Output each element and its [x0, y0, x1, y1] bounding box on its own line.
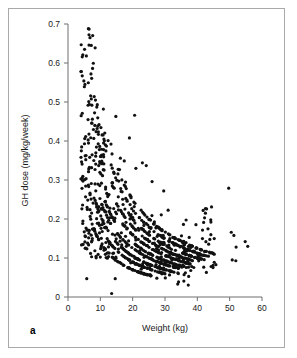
data-point — [97, 253, 100, 256]
data-point — [175, 257, 178, 260]
data-point — [104, 241, 107, 244]
data-point — [209, 233, 212, 236]
data-point — [143, 266, 146, 269]
data-point — [119, 157, 122, 160]
data-point — [133, 221, 136, 224]
data-point — [83, 48, 86, 51]
data-point — [203, 216, 206, 219]
data-point — [128, 136, 131, 139]
x-tick-label: 40 — [193, 303, 203, 313]
data-point — [95, 130, 98, 133]
data-point — [100, 208, 103, 211]
y-tick-label: 0.7 — [48, 19, 60, 29]
data-point — [90, 255, 93, 258]
data-point — [134, 263, 137, 266]
data-point — [126, 251, 129, 254]
data-point — [142, 242, 145, 245]
data-point — [116, 242, 119, 245]
data-point — [134, 228, 137, 231]
y-tick-label: 0.6 — [48, 58, 60, 68]
data-point — [100, 133, 103, 136]
data-point — [109, 143, 112, 146]
data-point — [81, 55, 84, 58]
data-point — [130, 246, 133, 249]
data-point — [89, 197, 92, 200]
data-point — [205, 271, 208, 274]
data-point — [155, 226, 158, 229]
data-point — [127, 239, 130, 242]
data-point — [151, 248, 154, 251]
data-point — [187, 245, 190, 248]
data-point — [115, 237, 118, 240]
data-point — [94, 151, 97, 154]
data-point — [99, 172, 102, 175]
data-point — [93, 124, 96, 127]
data-point — [98, 197, 101, 200]
data-point — [104, 210, 107, 213]
data-point — [173, 244, 176, 247]
data-point — [129, 261, 132, 264]
data-point — [94, 189, 97, 192]
y-axis-title: GH dose (mg/kg/week) — [20, 114, 30, 206]
data-point — [86, 198, 89, 201]
data-point — [209, 251, 212, 254]
data-point — [246, 245, 249, 248]
data-point — [82, 79, 85, 82]
data-point — [88, 36, 91, 39]
data-point — [96, 222, 99, 225]
data-point — [122, 213, 125, 216]
data-point — [85, 247, 88, 250]
data-point — [184, 271, 187, 274]
data-point — [125, 227, 128, 230]
data-point — [154, 263, 157, 266]
data-point — [142, 260, 145, 263]
data-point — [182, 279, 185, 282]
data-point — [164, 254, 167, 257]
data-point — [94, 155, 97, 158]
data-point — [117, 195, 120, 198]
data-point — [201, 254, 204, 257]
data-point — [97, 133, 100, 136]
data-point — [129, 222, 132, 225]
data-point — [178, 254, 181, 257]
data-point — [111, 181, 114, 184]
data-point — [105, 256, 108, 259]
data-point — [129, 232, 132, 235]
data-point — [90, 234, 93, 237]
data-point — [92, 196, 95, 199]
data-point — [114, 277, 117, 280]
data-point — [134, 249, 137, 252]
data-point — [152, 230, 155, 233]
data-point — [129, 194, 132, 197]
data-point — [108, 216, 111, 219]
data-point — [156, 235, 159, 238]
data-point — [162, 258, 165, 261]
data-point — [196, 254, 199, 257]
data-point — [111, 244, 114, 247]
data-point — [80, 43, 83, 46]
data-point — [159, 228, 162, 231]
data-point — [110, 292, 113, 295]
data-point — [87, 27, 90, 30]
data-point — [232, 234, 235, 237]
data-point — [113, 172, 116, 175]
data-point — [97, 237, 100, 240]
data-point — [100, 237, 103, 240]
data-point — [143, 213, 146, 216]
data-point — [111, 233, 114, 236]
data-point — [124, 185, 127, 188]
data-point — [120, 243, 123, 246]
data-point — [83, 178, 86, 181]
data-point — [91, 153, 94, 156]
data-point — [108, 242, 111, 245]
data-point — [141, 227, 144, 230]
data-point — [162, 189, 165, 192]
data-point — [91, 34, 94, 37]
data-point — [90, 211, 93, 214]
data-point — [208, 238, 211, 241]
data-point — [107, 245, 110, 248]
data-point — [142, 272, 145, 275]
data-point — [160, 247, 163, 250]
data-point — [138, 249, 141, 252]
data-point — [107, 139, 110, 142]
